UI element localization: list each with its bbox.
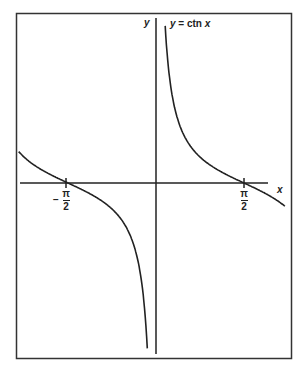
curve-left-branch bbox=[19, 152, 148, 349]
tick-label-neg-pi-half: π2 bbox=[61, 189, 71, 212]
title-y: y bbox=[170, 18, 176, 29]
tick-label-pi-half: π2 bbox=[239, 189, 249, 212]
pi: π bbox=[62, 188, 70, 199]
y-axis-label: y bbox=[144, 17, 150, 28]
two: 2 bbox=[63, 201, 69, 212]
title-x: x bbox=[205, 18, 211, 29]
neg-sign: − bbox=[53, 194, 59, 205]
chart-title: y = ctn x bbox=[170, 18, 210, 29]
curve-right-branch bbox=[165, 26, 285, 206]
chart-canvas bbox=[0, 0, 306, 367]
x-axis-label: x bbox=[277, 184, 283, 195]
two: 2 bbox=[241, 201, 247, 212]
pi: π bbox=[240, 188, 248, 199]
